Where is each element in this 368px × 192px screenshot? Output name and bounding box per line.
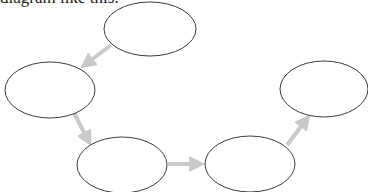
arrow-4-5-icon xyxy=(287,120,306,145)
node-4-ellipse xyxy=(205,136,295,192)
arrow-1-2-icon xyxy=(86,45,111,64)
flow-diagram xyxy=(0,0,368,192)
node-2-ellipse xyxy=(5,62,95,118)
node-1-ellipse xyxy=(104,2,196,56)
node-5-ellipse xyxy=(280,61,368,117)
node-3-ellipse xyxy=(77,137,167,192)
arrow-2-3-icon xyxy=(74,113,88,140)
